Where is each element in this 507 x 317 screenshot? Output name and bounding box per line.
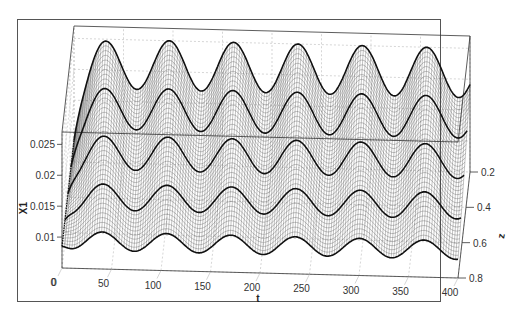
x-tick xyxy=(108,269,112,277)
x-tick-label: 250 xyxy=(293,283,310,294)
z-tick-label: 0.4 xyxy=(477,202,491,213)
x-tick xyxy=(58,268,62,276)
x-tick-label: 400 xyxy=(442,287,459,298)
surface-plot: 050100150200250300350400t0.20.40.60.8z0.… xyxy=(0,0,507,317)
v-tick-label: 0.02 xyxy=(36,170,56,181)
x-tick-label: 150 xyxy=(194,281,211,292)
v-tick-label: 0.025 xyxy=(30,139,55,150)
x-tick xyxy=(454,278,458,286)
x-tick xyxy=(157,271,161,279)
x-tick-label: 300 xyxy=(343,285,360,296)
grid-line xyxy=(62,38,74,144)
x-tick xyxy=(306,274,310,282)
box-edge xyxy=(458,172,470,278)
y-axis-label: z xyxy=(495,233,507,240)
x-tick-label: 200 xyxy=(244,282,261,293)
z-tick-label: 0.6 xyxy=(473,238,487,249)
x-tick xyxy=(256,273,260,281)
z-tick-label: 0.8 xyxy=(469,273,483,284)
x-tick-label: 100 xyxy=(145,280,162,291)
v-axis-label: X1 xyxy=(18,201,29,214)
grid-line xyxy=(112,163,124,269)
v-tick-label: 0.015 xyxy=(30,201,55,212)
x-tick xyxy=(207,272,211,280)
x-tick xyxy=(405,277,409,285)
origin-label: 0 xyxy=(50,277,56,288)
x-axis-label: t xyxy=(256,293,260,304)
x-tick-label: 350 xyxy=(392,286,409,297)
v-tick-label: 0.01 xyxy=(36,232,56,243)
z-tick-label: 0.2 xyxy=(481,167,495,178)
highlight-curve xyxy=(62,232,458,259)
x-tick-label: 50 xyxy=(98,278,110,289)
box-edge xyxy=(62,26,74,132)
x-tick xyxy=(355,276,359,284)
